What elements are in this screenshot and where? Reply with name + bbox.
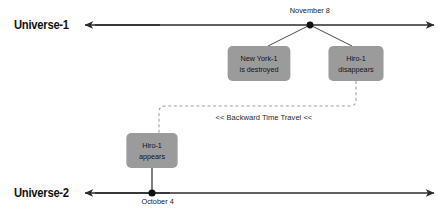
event-box-hiro-disappears[interactable]: Hiro-1 disappears <box>328 46 383 81</box>
universe-2-label: Universe-2 <box>14 186 69 200</box>
universe-1-event-node <box>307 22 314 29</box>
event-box-newyork-destroyed-line1: New York-1 <box>241 53 278 64</box>
event-box-hiro-appears-line1: Hiro-1 <box>142 140 162 151</box>
backward-time-travel-path <box>159 81 356 133</box>
diagram-canvas <box>0 0 447 217</box>
backward-time-travel-label: << Backward Time Travel << <box>216 113 313 122</box>
event-box-hiro-appears[interactable]: Hiro-1 appears <box>126 133 177 168</box>
event-box-hiro-disappears-line2: disappears <box>338 64 373 75</box>
universe-1-label: Universe-1 <box>14 18 69 32</box>
time-travel-diagram: Universe-1 Universe-2 November 8 October… <box>0 0 447 217</box>
event-box-newyork-destroyed[interactable]: New York-1 is destroyed <box>228 46 291 81</box>
event-box-hiro-disappears-line1: Hiro-1 <box>346 53 366 64</box>
universe-2-date-label: October 4 <box>141 197 173 206</box>
universe-2-event-node <box>148 189 155 196</box>
leader-line-newyork <box>268 25 310 46</box>
event-box-hiro-appears-line2: appears <box>139 151 165 162</box>
leader-line-hiro-disappears <box>310 25 352 46</box>
event-box-newyork-destroyed-line2: is destroyed <box>240 64 279 75</box>
universe-1-date-label: November 8 <box>290 6 330 15</box>
